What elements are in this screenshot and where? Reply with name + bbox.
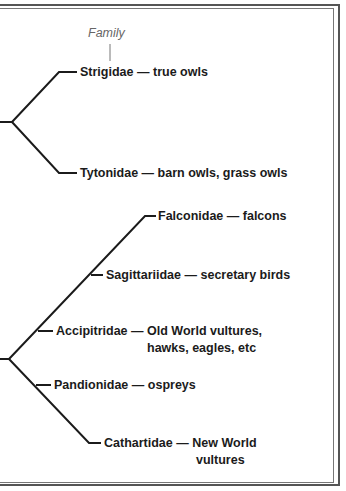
taxon-cathartidae-line2: vultures bbox=[196, 453, 245, 468]
taxon-pandionidae: Pandionidae — ospreys bbox=[54, 378, 196, 393]
common-name: barn owls, grass owls bbox=[158, 166, 288, 180]
separator-dash: — bbox=[185, 268, 198, 283]
separator-dash: — bbox=[137, 65, 150, 80]
separator-dash: — bbox=[142, 166, 155, 181]
common-name: Old World vultures, bbox=[147, 324, 262, 338]
taxon-accipitridae-line2: hawks, eagles, etc bbox=[147, 341, 256, 356]
separator-dash: — bbox=[227, 209, 240, 224]
family-name: Sagittariidae bbox=[106, 268, 181, 282]
taxon-strigidae: Strigidae — true owls bbox=[80, 65, 208, 80]
family-name: Tytonidae bbox=[80, 166, 138, 180]
separator-dash: — bbox=[176, 436, 189, 451]
taxon-tytonidae: Tytonidae — barn owls, grass owls bbox=[80, 166, 287, 181]
separator-dash: — bbox=[132, 378, 145, 393]
family-name: Pandionidae bbox=[54, 378, 128, 392]
family-column-header: Family bbox=[88, 26, 125, 40]
taxon-accipitridae: Accipitridae — Old World vultures, bbox=[56, 324, 262, 339]
common-name: true owls bbox=[153, 65, 208, 79]
separator-dash: — bbox=[131, 324, 144, 339]
taxon-cathartidae: Cathartidae — New World bbox=[104, 436, 257, 451]
family-name: Falconidae bbox=[158, 209, 223, 223]
taxon-falconidae: Falconidae — falcons bbox=[158, 209, 287, 224]
common-name: falcons bbox=[243, 209, 287, 223]
family-name: Accipitridae bbox=[56, 324, 128, 338]
family-name: Strigidae bbox=[80, 65, 134, 79]
common-name: ospreys bbox=[148, 378, 196, 392]
common-name: New World bbox=[192, 436, 256, 450]
common-name: secretary birds bbox=[201, 268, 291, 282]
family-name: Cathartidae bbox=[104, 436, 173, 450]
owl-clade-branches bbox=[0, 72, 77, 173]
taxon-sagittariidae: Sagittariidae — secretary birds bbox=[106, 268, 290, 283]
